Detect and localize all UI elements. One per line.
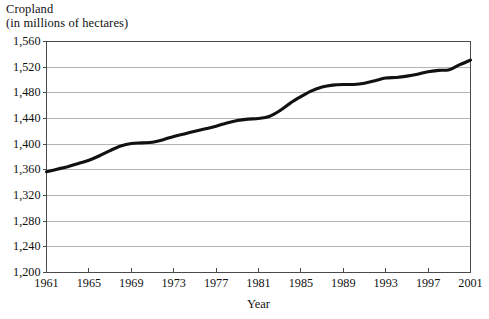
x-axis-title: Year bbox=[0, 297, 489, 312]
cropland-line-chart: Cropland (in millions of hectares) 1,200… bbox=[0, 0, 489, 319]
y-tick-label: 1,440 bbox=[1, 112, 41, 124]
x-tick-label: 1989 bbox=[320, 277, 366, 289]
x-tick-label: 1993 bbox=[363, 277, 409, 289]
x-tick-label: 2001 bbox=[448, 277, 489, 289]
gridlines bbox=[47, 67, 471, 247]
y-tick-label: 1,320 bbox=[1, 189, 41, 201]
x-tick-label: 1973 bbox=[151, 277, 197, 289]
y-tick-label: 1,560 bbox=[1, 35, 41, 47]
y-tick-marks bbox=[43, 42, 47, 273]
x-tick-label: 1981 bbox=[236, 277, 282, 289]
x-tick-label: 1977 bbox=[193, 277, 239, 289]
x-tick-label: 1961 bbox=[24, 277, 70, 289]
plot-area bbox=[0, 0, 489, 319]
x-tick-marks bbox=[47, 268, 471, 273]
x-tick-label: 1997 bbox=[405, 277, 451, 289]
x-tick-label: 1965 bbox=[66, 277, 112, 289]
y-tick-label: 1,360 bbox=[1, 163, 41, 175]
x-tick-label: 1985 bbox=[278, 277, 324, 289]
y-tick-label: 1,240 bbox=[1, 240, 41, 252]
y-tick-label: 1,400 bbox=[1, 138, 41, 150]
y-tick-label: 1,480 bbox=[1, 86, 41, 98]
data-series-line bbox=[47, 60, 471, 172]
y-tick-label: 1,520 bbox=[1, 61, 41, 73]
x-axis-title-text: Year bbox=[247, 297, 270, 312]
y-tick-label: 1,280 bbox=[1, 215, 41, 227]
x-tick-label: 1969 bbox=[108, 277, 154, 289]
